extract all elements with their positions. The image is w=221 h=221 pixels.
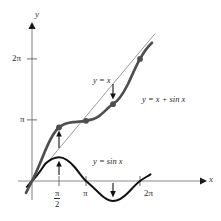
curve-label-identity: y = x [93, 76, 111, 85]
x-tick-label-pi: π [83, 189, 88, 198]
curve-sum [26, 43, 152, 193]
y-axis-label: y [35, 10, 39, 19]
marker-point [83, 118, 89, 124]
marker-point [137, 56, 143, 62]
plot-canvas [0, 0, 221, 221]
curve-markers [56, 56, 143, 130]
x-tick-label-pi-over-2: π 2 [54, 189, 60, 210]
fraction-numerator: π [54, 189, 60, 198]
math-figure: y x 2π π π 2 π 2π y = x y = x + sin x y … [0, 0, 221, 221]
marker-point [56, 125, 62, 131]
curve-label-sine: y = sin x [93, 157, 123, 166]
marker-point [110, 101, 116, 107]
fraction-denominator: 2 [54, 200, 60, 209]
y-tick-label-pi: π [20, 115, 25, 124]
y-tick-label-2pi: 2π [12, 54, 21, 63]
curve-label-sum: y = x + sin x [142, 95, 185, 104]
x-tick-label-2pi: 2π [144, 189, 153, 198]
x-axis-label: x [209, 175, 213, 184]
curve-sine [27, 157, 151, 201]
